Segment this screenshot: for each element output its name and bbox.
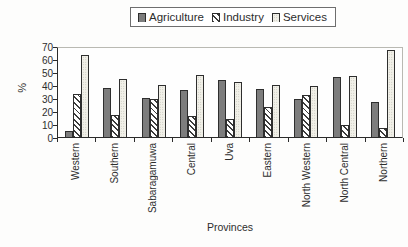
bar-industry-southern xyxy=(111,115,119,137)
bar-industry-north-central xyxy=(341,125,349,137)
bar-chart-figure: Agriculture Industry Services % Province… xyxy=(0,0,408,247)
x-tick-mark-6 xyxy=(288,138,289,142)
bar-group-sabaragamuwa xyxy=(134,85,172,137)
y-tick-mark-60 xyxy=(53,60,57,61)
x-category-label-central: Central xyxy=(185,143,198,175)
bar-services-north-western xyxy=(310,86,318,137)
y-tick-label-30: 30 xyxy=(25,94,53,105)
x-tick-mark-7 xyxy=(326,138,327,142)
x-tick-mark-2 xyxy=(134,138,135,142)
legend-item-agriculture: Agriculture xyxy=(138,11,204,23)
legend-item-services: Services xyxy=(272,11,327,23)
y-tick-label-0: 0 xyxy=(25,133,53,144)
legend-label-agriculture: Agriculture xyxy=(149,11,204,23)
x-tick-mark-9 xyxy=(403,138,404,142)
bar-group-western xyxy=(58,55,96,137)
bar-services-north-central xyxy=(349,76,357,137)
bar-industry-eastern xyxy=(264,107,272,137)
bar-services-uva xyxy=(234,82,242,137)
bar-industry-northern xyxy=(379,128,387,137)
x-category-label-north-central: North Central xyxy=(338,143,351,202)
y-tick-mark-70 xyxy=(53,47,57,48)
x-category-label-southern: Southern xyxy=(108,143,121,184)
bar-agriculture-uva xyxy=(218,80,226,137)
x-tick-mark-3 xyxy=(172,138,173,142)
bar-group-central xyxy=(173,75,211,137)
bar-group-northern xyxy=(364,50,402,137)
agriculture-swatch-icon xyxy=(138,13,146,22)
y-tick-label-50: 50 xyxy=(25,68,53,79)
y-tick-label-40: 40 xyxy=(25,81,53,92)
x-tick-mark-0 xyxy=(57,138,58,142)
plot-area xyxy=(57,47,403,138)
y-tick-label-60: 60 xyxy=(25,55,53,66)
bar-agriculture-southern xyxy=(103,88,111,137)
bar-services-eastern xyxy=(272,85,280,137)
bar-industry-central xyxy=(188,116,196,137)
bar-services-western xyxy=(81,55,89,137)
y-tick-mark-10 xyxy=(53,125,57,126)
bar-services-southern xyxy=(119,79,127,138)
bar-agriculture-eastern xyxy=(256,89,264,137)
x-category-label-eastern: Eastern xyxy=(261,143,274,177)
x-category-label-uva: Uva xyxy=(223,143,236,161)
x-axis-title: Provinces xyxy=(57,221,403,233)
bar-industry-western xyxy=(73,94,81,137)
bar-agriculture-western xyxy=(65,131,73,138)
x-category-label-western: Western xyxy=(69,143,82,180)
x-tick-mark-1 xyxy=(95,138,96,142)
bar-group-southern xyxy=(96,79,134,138)
y-tick-label-20: 20 xyxy=(25,107,53,118)
x-tick-mark-4 xyxy=(211,138,212,142)
y-tick-mark-50 xyxy=(53,73,57,74)
bar-services-central xyxy=(196,75,204,137)
bar-industry-north-western xyxy=(302,95,310,137)
bar-group-uva xyxy=(211,80,249,137)
bar-industry-sabaragamuwa xyxy=(150,99,158,137)
y-tick-label-70: 70 xyxy=(25,42,53,53)
bar-group-north-central xyxy=(326,76,364,137)
x-tick-mark-8 xyxy=(365,138,366,142)
bar-services-northern xyxy=(387,50,395,137)
x-tick-mark-5 xyxy=(249,138,250,142)
legend-label-industry: Industry xyxy=(223,11,264,23)
y-tick-mark-20 xyxy=(53,112,57,113)
y-tick-label-10: 10 xyxy=(25,120,53,131)
legend-item-industry: Industry xyxy=(212,11,264,23)
bar-services-sabaragamuwa xyxy=(158,85,166,137)
bar-industry-uva xyxy=(226,119,234,137)
services-swatch-icon xyxy=(272,13,280,22)
y-tick-mark-30 xyxy=(53,99,57,100)
bar-group-eastern xyxy=(249,85,287,137)
x-category-label-north-western: North Western xyxy=(300,143,313,207)
bar-agriculture-central xyxy=(180,90,188,137)
bar-agriculture-northern xyxy=(371,102,379,137)
legend-label-services: Services xyxy=(283,11,327,23)
industry-swatch-icon xyxy=(212,13,220,22)
bar-agriculture-sabaragamuwa xyxy=(142,98,150,137)
x-category-label-northern: Northern xyxy=(377,143,390,182)
bar-group-north-western xyxy=(287,86,325,137)
bar-agriculture-north-western xyxy=(294,99,302,137)
y-tick-mark-40 xyxy=(53,86,57,87)
x-category-label-sabaragamuwa: Sabaragamuwa xyxy=(146,143,159,213)
bar-agriculture-north-central xyxy=(333,77,341,137)
legend: Agriculture Industry Services xyxy=(130,7,336,27)
